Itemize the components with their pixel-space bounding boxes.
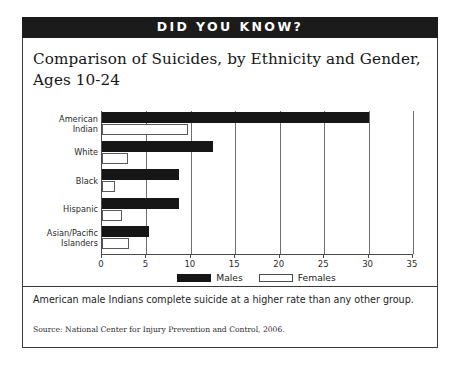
- chart-title: Comparison of Suicides, by Ethnicity and…: [33, 49, 425, 91]
- legend-item-males: Males: [177, 272, 243, 283]
- source-text: Source: National Center for Injury Preve…: [33, 325, 423, 335]
- section-divider: [22, 286, 438, 287]
- caption-text: American male Indians complete suicide a…: [33, 293, 423, 307]
- legend-label: Females: [298, 272, 336, 283]
- legend-swatch-icon: [177, 274, 211, 282]
- legend-label: Males: [216, 272, 243, 283]
- banner-title: DID YOU KNOW?: [157, 21, 304, 34]
- chart-legend: MalesFemales: [101, 272, 412, 283]
- legend-item-females: Females: [259, 272, 336, 283]
- header-banner: DID YOU KNOW?: [22, 17, 438, 38]
- legend-swatch-icon: [259, 274, 293, 282]
